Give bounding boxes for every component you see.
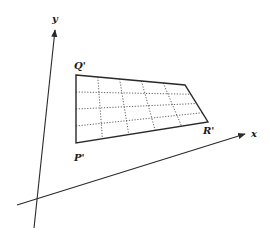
y-axis-label: y — [51, 13, 59, 24]
transformed-quadrilateral — [76, 75, 208, 143]
grid-line-horizontal — [76, 113, 202, 126]
grid-line-horizontal — [76, 92, 191, 94]
dotted-grid — [76, 77, 202, 139]
grid-line-horizontal — [76, 104, 197, 110]
diagram-canvas: y x Q' R' P' — [0, 0, 270, 241]
vertex-label-q: Q' — [74, 60, 86, 71]
x-axis-label: x — [250, 128, 258, 139]
x-axis — [17, 134, 245, 205]
vertex-label-r: R' — [202, 125, 214, 136]
vertex-label-p: P' — [73, 152, 85, 163]
